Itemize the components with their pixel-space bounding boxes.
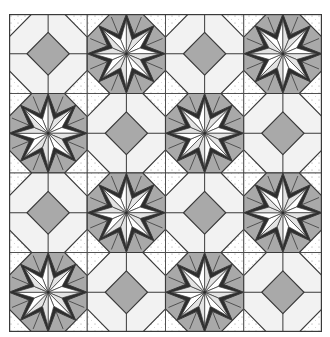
star-center [203, 132, 205, 134]
star-block [166, 94, 244, 174]
diamond-block [87, 94, 165, 174]
star-block [244, 14, 322, 94]
diamond-block [9, 173, 87, 253]
diamond-block [244, 94, 322, 174]
star-center [47, 132, 49, 134]
star-center [203, 291, 205, 293]
star-block [244, 173, 322, 253]
diamond-block [9, 14, 87, 94]
diamond-block [87, 253, 165, 333]
diamond-block [166, 14, 244, 94]
diamond-block [244, 253, 322, 333]
star-block [166, 253, 244, 333]
star-block [9, 94, 87, 174]
star-center [125, 53, 127, 55]
star-center [282, 212, 284, 214]
diamond-block [166, 173, 244, 253]
quilt-pattern [9, 14, 322, 332]
star-center [125, 212, 127, 214]
star-center [47, 291, 49, 293]
star-block [9, 253, 87, 333]
star-block [87, 14, 165, 94]
quilt-blocks [9, 14, 322, 332]
star-center [282, 53, 284, 55]
star-block [87, 173, 165, 253]
